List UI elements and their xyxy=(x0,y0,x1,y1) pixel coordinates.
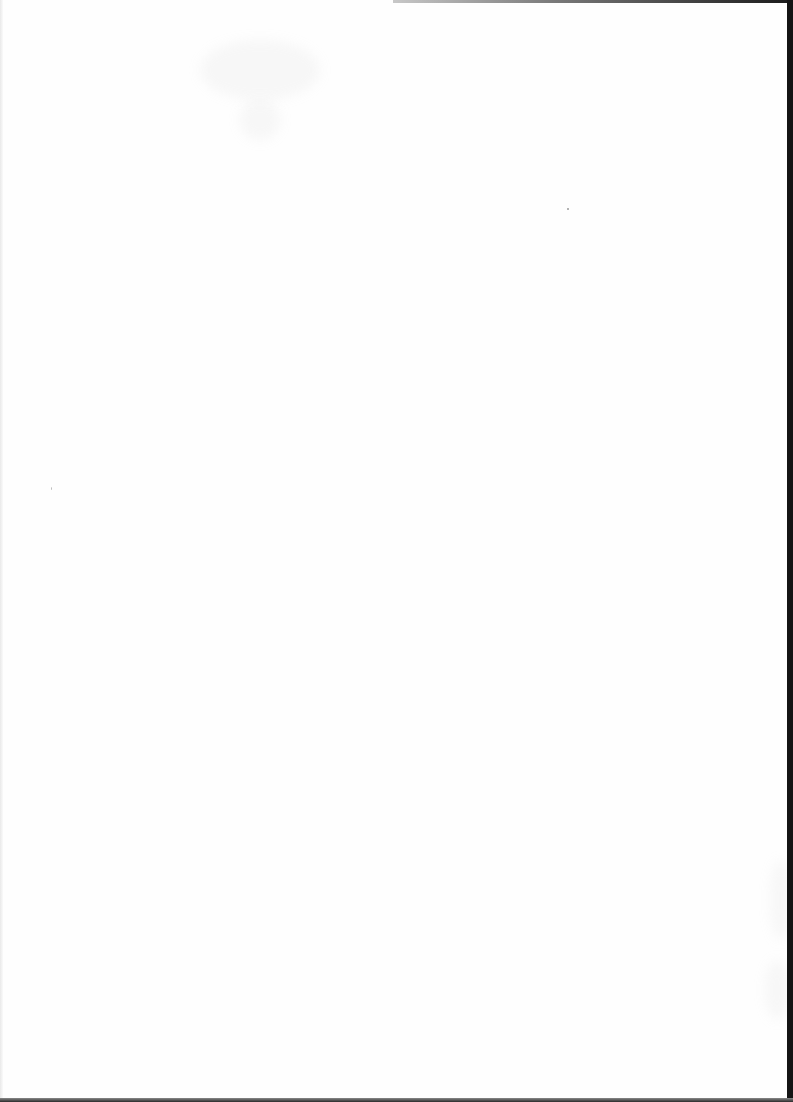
dust-speck xyxy=(51,487,52,490)
scan-bottom-border xyxy=(0,1098,793,1102)
scan-right-border xyxy=(787,4,793,1102)
blank-scanned-page xyxy=(0,0,787,1098)
bleed-through-mark xyxy=(200,40,320,100)
scan-top-edge xyxy=(393,0,793,3)
bleed-through-mark xyxy=(765,960,789,1020)
dust-speck xyxy=(567,208,569,210)
scan-left-edge xyxy=(0,0,3,1102)
bleed-through-mark xyxy=(240,100,280,140)
